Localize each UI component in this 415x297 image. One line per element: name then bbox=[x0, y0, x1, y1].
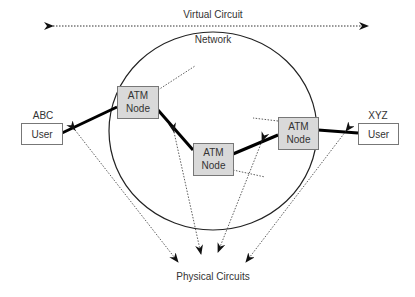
atm-node-line2: Node bbox=[202, 160, 226, 173]
virtual-circuit-label: Virtual Circuit bbox=[183, 10, 242, 20]
atm-node-line2: Node bbox=[287, 134, 311, 147]
user-xyz-label: User bbox=[368, 129, 389, 140]
network-label: Network bbox=[195, 35, 232, 45]
atm-node-line1: ATM bbox=[288, 121, 308, 134]
user-xyz-box: User bbox=[358, 123, 399, 145]
physical-circuits-label: Physical Circuits bbox=[176, 272, 249, 282]
user-abc-box: User bbox=[21, 123, 63, 145]
atm-node-line2: Node bbox=[126, 103, 150, 116]
atm-node-2: ATM Node bbox=[193, 143, 234, 176]
atm-node-line1: ATM bbox=[128, 90, 148, 103]
atm-node-1: ATM Node bbox=[117, 86, 159, 119]
atm-node-line1: ATM bbox=[203, 147, 223, 160]
atm-node-3: ATM Node bbox=[278, 117, 319, 150]
user-xyz-name: XYZ bbox=[368, 111, 387, 121]
user-abc-label: User bbox=[31, 129, 52, 140]
user-abc-name: ABC bbox=[33, 111, 54, 121]
